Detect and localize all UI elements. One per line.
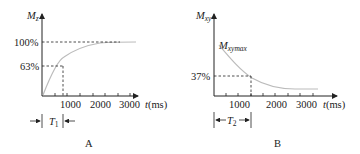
y-axis-label: Mxy: [195, 10, 212, 23]
panel-label-a: A: [85, 138, 93, 149]
x-tick-3000: 3000: [119, 99, 140, 110]
x-axis-label: t(ms): [323, 99, 346, 111]
x-tick-2000: 2000: [266, 99, 287, 110]
tick-100: 100%: [14, 37, 39, 48]
figure: Mz 100% 63% 1000 2000 3000 t(ms) T1 A: [0, 0, 360, 154]
t1-label: T1: [49, 116, 59, 129]
x-tick-2000: 2000: [90, 99, 111, 110]
guide-lines: [42, 42, 120, 96]
x-tick-3000: 3000: [296, 99, 317, 110]
x-tick-1000: 1000: [229, 99, 250, 110]
recovery-curve: [43, 42, 136, 95]
tick-63: 63%: [20, 61, 40, 72]
chart-b: Mxy Mxymax 37% 1000 2000 3000 t(ms) T2 B: [191, 10, 346, 149]
tick-37: 37%: [191, 71, 211, 82]
x-tick-1000: 1000: [60, 99, 81, 110]
curve-label: Mxymax: [218, 40, 248, 53]
chart-a: Mz 100% 63% 1000 2000 3000 t(ms) T1 A: [14, 10, 168, 149]
y-axis-label: Mz: [26, 10, 39, 23]
guide-lines: [214, 76, 251, 96]
panel-label-b: B: [274, 138, 281, 149]
t2-label: T2: [227, 115, 237, 128]
x-axis-label: t(ms): [145, 99, 168, 111]
